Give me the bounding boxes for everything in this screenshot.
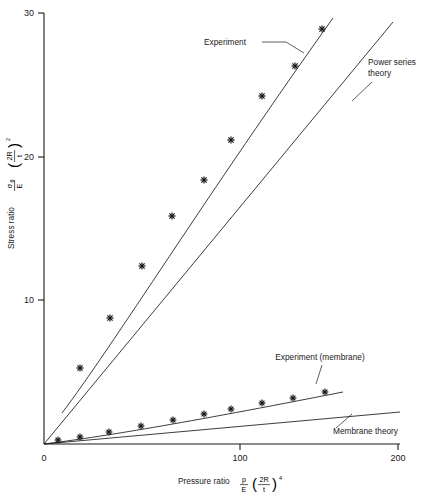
annotation-experiment-membrane: Experiment (membrane) <box>275 352 365 384</box>
x-axis-group-num: 2R <box>259 475 268 484</box>
x-axis-title-group: ( 2R t ) 4 <box>252 475 282 495</box>
annotation-label-membrane-theory: Membrane theory <box>333 426 399 436</box>
origin-label: 0 <box>41 453 46 463</box>
y-axis-title-prefix: Stress ratio <box>6 207 16 249</box>
data-marker <box>138 423 145 430</box>
leader-line-experiment <box>262 42 304 53</box>
data-marker <box>258 92 265 99</box>
data-marker <box>318 25 325 32</box>
y-axis-exponent: 2 <box>5 138 11 141</box>
x-axis-paren-open: ( <box>252 475 257 492</box>
data-marker <box>200 176 207 183</box>
annotation-label-power-series-theory-line1: Power series <box>368 57 416 67</box>
x-tick-label-200: 200 <box>390 453 405 463</box>
y-tick-label-30: 30 <box>24 8 34 18</box>
x-axis-paren-close: ) <box>272 475 277 492</box>
x-axis-p-symbol: p <box>242 475 246 484</box>
y-axis-group-den: t <box>15 155 24 157</box>
y-axis-paren-open: ( <box>5 163 22 168</box>
data-marker <box>291 62 298 69</box>
y-axis-sigma-subscript: θ <box>9 180 15 183</box>
y-tick-label-20: 20 <box>24 152 34 162</box>
data-marker <box>77 434 84 441</box>
y-axis-title-group: ( 2R t ) 2 <box>5 138 25 168</box>
data-marker <box>290 395 297 402</box>
data-marker <box>55 437 62 444</box>
annotation-label-experiment-membrane: Experiment (membrane) <box>275 352 365 362</box>
y-axis-title-fraction: σ θ E <box>5 180 25 192</box>
data-marker <box>106 314 113 321</box>
stress-pressure-ratio-chart: 30 20 10 0 100 200 <box>0 0 433 501</box>
data-marker <box>227 136 234 143</box>
x-axis-title: Pressure ratio p E ( 2R t ) 4 <box>178 475 282 495</box>
y-tick-label-10: 10 <box>24 295 34 305</box>
leader-line-power-series-theory <box>352 82 372 101</box>
curve-experiment-membrane <box>44 392 343 444</box>
annotation-power-series-theory: Power series theory <box>352 57 416 101</box>
y-axis-title: Stress ratio σ θ E ( 2R t ) 2 <box>5 138 25 249</box>
y-axis-sigma-symbol: σ <box>5 183 14 188</box>
y-axis-group-num: 2R <box>5 151 14 160</box>
data-marker-group-experiment-membrane <box>55 389 329 444</box>
x-tick-label-100: 100 <box>232 453 247 463</box>
data-marker-group-experiment <box>76 25 325 371</box>
data-marker <box>76 364 83 371</box>
annotation-experiment: Experiment <box>204 37 304 53</box>
data-marker <box>138 262 145 269</box>
leader-line-experiment-membrane <box>316 365 322 384</box>
data-marker <box>228 406 235 413</box>
data-marker <box>168 212 175 219</box>
annotation-label-power-series-theory-line2: theory <box>368 68 392 78</box>
x-axis-exponent: 4 <box>279 475 282 481</box>
figure-container: 30 20 10 0 100 200 <box>0 0 433 501</box>
y-axis-paren-close: ) <box>5 143 22 148</box>
data-marker <box>106 429 113 436</box>
curve-power-series-theory <box>44 22 393 444</box>
x-axis-E-symbol: E <box>242 485 247 494</box>
data-marker <box>322 389 329 396</box>
data-marker <box>201 411 208 418</box>
x-axis-title-prefix: Pressure ratio <box>178 476 230 486</box>
x-axis-group-den: t <box>263 485 265 494</box>
annotation-label-experiment: Experiment <box>204 37 247 47</box>
data-marker <box>170 417 177 424</box>
x-axis-title-fraction: p E <box>240 475 248 495</box>
y-axis-E-symbol: E <box>15 183 24 188</box>
data-marker <box>259 400 266 407</box>
